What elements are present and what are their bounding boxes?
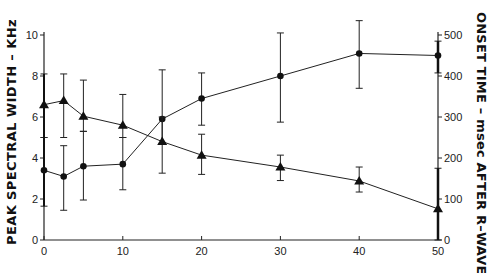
circle-marker [356,50,363,57]
left-y-tick-label: 2 [32,193,38,205]
circle-series-line [44,53,438,176]
right-y-tick-label: 400 [444,70,462,82]
circle-marker [80,163,87,170]
x-tick-label: 40 [353,245,365,257]
chart-plot: 0102030405002468100100200300400500 [0,0,495,273]
x-tick-label: 0 [41,245,47,257]
right-y-tick-label: 500 [444,29,462,41]
left-y-tick-label: 0 [32,234,38,246]
right-y-tick-label: 200 [444,152,462,164]
right-y-tick-label: 0 [444,234,450,246]
x-tick-label: 50 [432,245,444,257]
left-y-tick-label: 6 [32,111,38,123]
x-tick-label: 10 [117,245,129,257]
triangle-marker [59,96,69,105]
right-y-tick-label: 300 [444,111,462,123]
circle-marker [198,95,205,102]
left-y-tick-label: 4 [32,152,38,164]
circle-marker [60,173,67,180]
x-tick-label: 30 [274,245,286,257]
left-axis-label: PEAK SPECTRAL WIDTH – KHz [4,35,19,245]
circle-marker [120,161,127,168]
left-y-tick-label: 8 [32,70,38,82]
circle-marker [277,73,284,80]
x-tick-label: 20 [195,245,207,257]
triangle-marker [157,137,167,146]
right-axis-label: ONSET TIME – msec AFTER R–WAVE [474,12,489,242]
triangle-marker [78,111,88,120]
right-y-tick-label: 100 [444,193,462,205]
triangle-series-line [44,101,438,209]
left-y-tick-label: 10 [26,29,38,41]
